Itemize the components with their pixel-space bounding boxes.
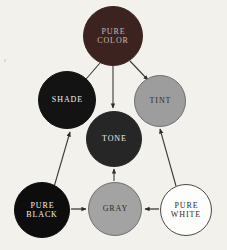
node-tone[interactable]: TONE <box>86 111 142 167</box>
node-shade-label: SHADE <box>51 95 83 105</box>
node-pure-black-label: PURE BLACK <box>26 201 58 220</box>
arrow-pure-color-to-tint <box>130 61 148 80</box>
node-pure-black[interactable]: PURE BLACK <box>14 182 70 238</box>
arrow-pure-white-to-tint <box>160 129 176 186</box>
node-pure-color[interactable]: PURE COLOR <box>83 6 143 66</box>
node-shade[interactable]: SHADE <box>38 71 96 129</box>
node-tint-label: TINT <box>149 96 172 106</box>
node-pure-color-label: PURE COLOR <box>97 27 129 46</box>
node-pure-white[interactable]: PURE WHITE <box>160 184 212 236</box>
node-tone-label: TONE <box>101 134 127 144</box>
arrow-pure-black-to-shade <box>54 132 70 187</box>
node-pure-white-label: PURE WHITE <box>171 201 201 220</box>
node-gray[interactable]: GRAY <box>88 182 142 236</box>
node-gray-label: GRAY <box>102 204 128 214</box>
color-relationship-diagram: r PURE COLOR SHADE TINT TONE PURE BLACK … <box>0 0 227 250</box>
node-tint[interactable]: TINT <box>134 75 186 127</box>
